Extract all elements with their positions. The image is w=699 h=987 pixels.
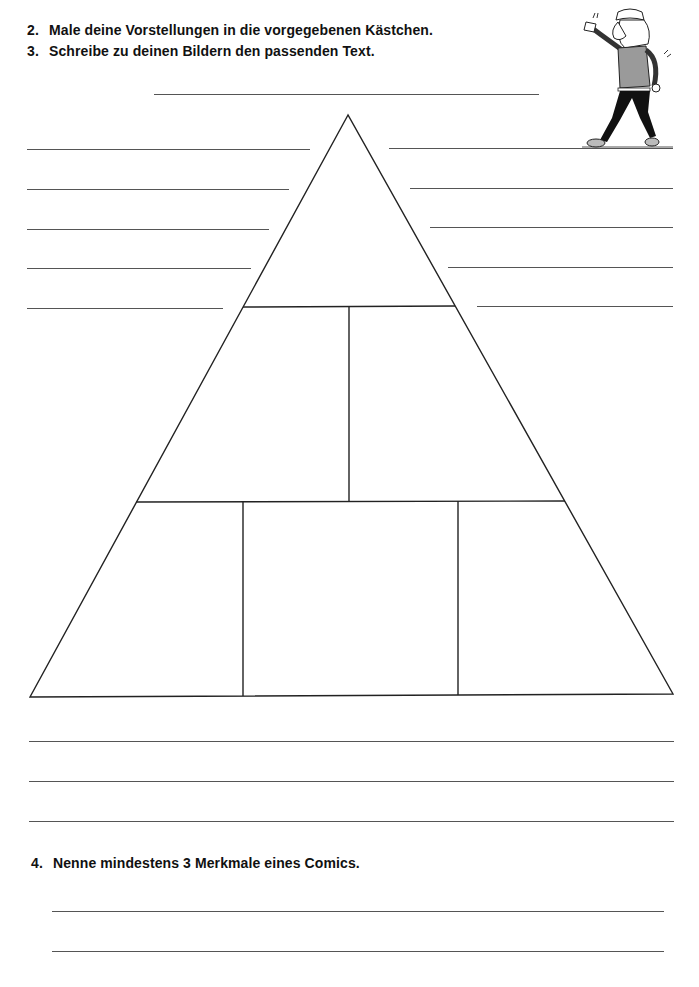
- question-4-answer-line-1[interactable]: [52, 911, 664, 912]
- comic-pyramid: [0, 0, 699, 987]
- pyramid-text-line-1[interactable]: [29, 741, 674, 742]
- question-number: 4.: [31, 855, 53, 871]
- drawing-box-bottom-left[interactable]: [33, 504, 241, 695]
- pyramid-text-line-2[interactable]: [29, 781, 674, 782]
- drawing-box-middle-left[interactable]: [138, 309, 347, 500]
- drawing-box-bottom-right[interactable]: [460, 503, 670, 693]
- pyramid-text-line-3[interactable]: [29, 821, 674, 822]
- pyramid-divider-top: [243, 306, 455, 307]
- drawing-box-top[interactable]: [246, 118, 453, 305]
- question-4: 4.Nenne mindestens 3 Merkmale eines Comi…: [31, 855, 360, 871]
- cartoon-girl-illustration: [582, 9, 673, 147]
- pyramid-divider-middle: [136, 501, 565, 502]
- drawing-box-bottom-middle[interactable]: [245, 503, 456, 694]
- question-text: Nenne mindestens 3 Merkmale eines Comics…: [53, 855, 360, 871]
- question-4-answer-line-2[interactable]: [52, 951, 664, 952]
- drawing-box-middle-right[interactable]: [351, 309, 563, 499]
